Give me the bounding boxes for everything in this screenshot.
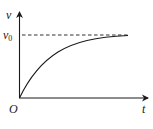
origin-label: O xyxy=(9,102,18,116)
velocity-curve xyxy=(20,36,129,99)
vt-graph: v v0 O t xyxy=(0,0,153,129)
x-axis-label: t xyxy=(142,102,146,116)
y-axis-label: v xyxy=(6,8,12,22)
asymptote-label: v0 xyxy=(3,28,12,43)
asymptote-label-sub: 0 xyxy=(8,34,12,43)
